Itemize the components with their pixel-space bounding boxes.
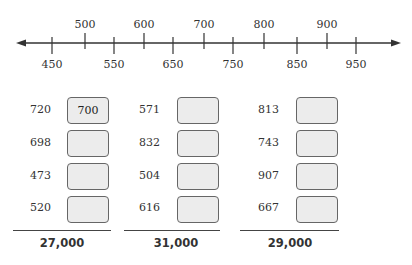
- number-cell: 698: [30, 136, 51, 149]
- column-total: 31,000: [154, 236, 198, 250]
- tick-label-450: 450: [42, 58, 63, 71]
- number-cell: 520: [30, 201, 51, 214]
- tick-label-850: 850: [287, 58, 308, 71]
- tick-label-550: 550: [104, 58, 125, 71]
- tick-label-600: 600: [134, 18, 155, 31]
- tick-label-750: 750: [223, 58, 244, 71]
- number-cell: 832: [139, 136, 160, 149]
- column-total: 27,000: [40, 236, 84, 250]
- tick-label-900: 900: [317, 18, 338, 31]
- answer-box[interactable]: [67, 196, 109, 223]
- tick-label-950: 950: [346, 58, 367, 71]
- answer-box[interactable]: [67, 130, 109, 157]
- tick-label-650: 650: [163, 58, 184, 71]
- right-arrow-icon: [391, 40, 401, 47]
- sum-line: [240, 230, 339, 231]
- number-cell: 907: [258, 169, 279, 182]
- number-cell: 743: [258, 136, 279, 149]
- answer-box[interactable]: [177, 163, 219, 190]
- number-cell: 504: [139, 169, 160, 182]
- tick-label-500: 500: [75, 18, 96, 31]
- answer-box[interactable]: [296, 130, 338, 157]
- column-total: 29,000: [268, 236, 312, 250]
- number-cell: 571: [139, 103, 160, 116]
- sum-line: [13, 230, 111, 231]
- number-cell: 720: [30, 103, 51, 116]
- answer-box[interactable]: [296, 163, 338, 190]
- sum-line: [124, 230, 220, 231]
- answer-box[interactable]: 700: [67, 97, 109, 124]
- answer-box[interactable]: [177, 196, 219, 223]
- number-cell: 813: [258, 103, 279, 116]
- answer-box[interactable]: [296, 97, 338, 124]
- answer-box[interactable]: [177, 97, 219, 124]
- number-cell: 473: [30, 169, 51, 182]
- tick-label-800: 800: [254, 18, 275, 31]
- answer-box[interactable]: [67, 163, 109, 190]
- answer-box[interactable]: [177, 130, 219, 157]
- left-arrow-icon: [16, 40, 26, 47]
- answer-box[interactable]: [296, 196, 338, 223]
- number-cell: 667: [258, 201, 279, 214]
- number-cell: 616: [139, 201, 160, 214]
- tick-label-700: 700: [194, 18, 215, 31]
